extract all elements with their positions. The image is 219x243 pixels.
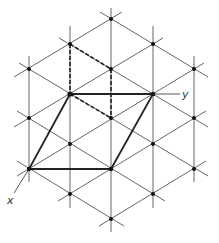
- hexagonal-lattice-diagram: y x: [0, 0, 219, 243]
- x-axis: [14, 169, 29, 193]
- y-axis-label: y: [181, 88, 189, 101]
- axes: [14, 94, 180, 193]
- vertical-grid-lines: [29, 8, 194, 232]
- x-axis-label: x: [6, 194, 14, 207]
